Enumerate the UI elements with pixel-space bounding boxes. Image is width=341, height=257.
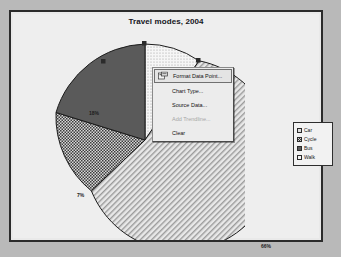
menu-label-chart-type: Chart Type... — [172, 88, 203, 94]
menu-item-clear[interactable]: Clear — [154, 126, 232, 140]
menu-label-source-data: Source Data... — [172, 102, 207, 108]
selection-handle[interactable] — [101, 59, 106, 64]
menu-label-add-trendline: Add Trendline... — [172, 116, 211, 122]
legend-item-car[interactable]: Car — [297, 126, 330, 135]
chart-frame[interactable]: Travel modes, 2004 — [9, 10, 323, 242]
selection-handle[interactable] — [196, 58, 201, 63]
screenshot-canvas: Travel modes, 2004 — [0, 0, 341, 257]
legend-item-walk[interactable]: Walk — [297, 153, 330, 162]
menu-item-add-trendline: Add Trendline... — [154, 112, 232, 126]
context-menu[interactable]: Format Data Point... Chart Type... Sourc… — [152, 67, 234, 142]
selection-handle[interactable] — [142, 41, 147, 46]
chart-legend[interactable]: Car Cycle Bus Walk — [293, 122, 333, 166]
data-label-cycle: 7% — [77, 192, 84, 198]
menu-item-source-data[interactable]: Source Data... — [154, 98, 232, 112]
data-label-car: 66% — [261, 243, 271, 249]
legend-swatch-bus-icon — [297, 146, 302, 151]
menu-label-format-data-point: Format Data Point... — [173, 73, 222, 79]
legend-swatch-car-icon — [297, 128, 302, 133]
menu-item-format-data-point[interactable]: Format Data Point... — [154, 69, 232, 83]
legend-item-cycle[interactable]: Cycle — [297, 135, 330, 144]
data-label-bus: 18% — [89, 110, 99, 116]
legend-label-bus: Bus — [304, 144, 313, 153]
chart-title: Travel modes, 2004 — [11, 17, 321, 26]
legend-swatch-cycle-icon — [297, 137, 302, 142]
format-data-point-icon — [158, 72, 168, 81]
legend-label-walk: Walk — [304, 153, 315, 162]
legend-label-cycle: Cycle — [304, 135, 317, 144]
legend-label-car: Car — [304, 126, 312, 135]
legend-swatch-walk-icon — [297, 155, 302, 160]
menu-label-clear: Clear — [172, 130, 185, 136]
menu-item-chart-type[interactable]: Chart Type... — [154, 84, 232, 98]
legend-item-bus[interactable]: Bus — [297, 144, 330, 153]
